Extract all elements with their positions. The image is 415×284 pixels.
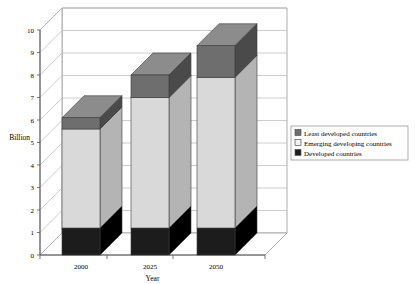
bar-column	[131, 53, 191, 255]
bar-segment-front-face	[131, 98, 169, 229]
legend-item[interactable]: Least developed countries	[295, 130, 377, 139]
bar-segment-front-face	[197, 77, 235, 228]
legend-item[interactable]: Emerging developing countries	[295, 140, 392, 149]
x-tick-label: 2050	[209, 263, 224, 271]
y-tick-label: 1	[31, 229, 35, 237]
y-tick-label: 2	[31, 207, 35, 215]
x-axis-title: Year	[146, 274, 160, 283]
bar-segment-front-face	[62, 129, 100, 228]
bar-segment-front-face	[197, 228, 235, 255]
y-tick-label: 8	[31, 72, 35, 80]
legend-swatch-icon	[295, 140, 301, 146]
bar-column	[197, 24, 257, 255]
legend-swatch-icon	[295, 130, 301, 136]
y-tick-label: 5	[31, 139, 35, 147]
x-tick-label: 2025	[143, 263, 158, 271]
bar-segment-front-face	[62, 118, 100, 129]
y-tick-label: 6	[31, 117, 35, 125]
legend-label: Least developed countries	[304, 130, 377, 138]
y-tick-label: 10	[27, 27, 35, 35]
bar-segment-front-face	[62, 228, 100, 255]
legend-item[interactable]: Developed countries	[295, 150, 362, 159]
y-tick-label: 3	[31, 184, 35, 192]
legend-label: Emerging developing countries	[304, 140, 392, 148]
y-tick-label: 0	[31, 252, 35, 260]
y-tick-label: 7	[31, 94, 35, 102]
x-tick-label: 2000	[74, 263, 89, 271]
legend-label: Developed countries	[304, 150, 362, 158]
y-tick-label: 4	[31, 162, 35, 170]
bar-segment-side-face	[235, 55, 257, 228]
bar-segment-side-face	[169, 76, 191, 229]
legend-swatch-icon	[295, 150, 301, 156]
bar-column	[62, 96, 122, 255]
stacked-column-chart: 012345678910200020252050BillionYearLeast…	[0, 0, 415, 284]
bar-segment-front-face	[197, 46, 235, 78]
y-tick-label: 9	[31, 49, 35, 57]
chart-container: 012345678910200020252050BillionYearLeast…	[0, 0, 415, 284]
bar-segment-front-face	[131, 75, 169, 98]
bar-segment-front-face	[131, 228, 169, 255]
y-axis-title: Billion	[9, 133, 30, 142]
